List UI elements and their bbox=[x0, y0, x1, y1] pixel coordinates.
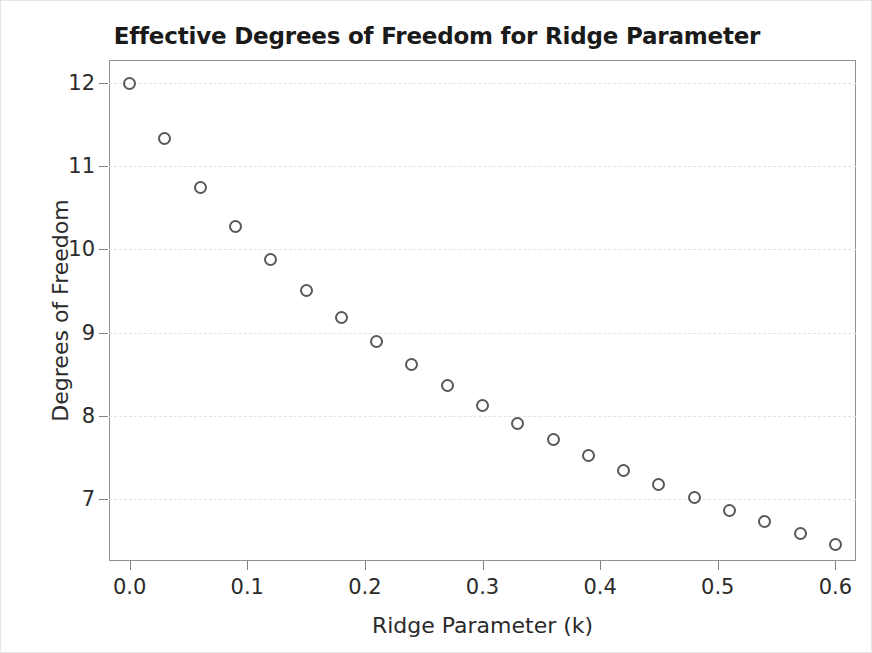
y-tick-mark bbox=[99, 416, 108, 417]
data-point bbox=[335, 311, 348, 324]
x-tick-label: 0.3 bbox=[466, 575, 499, 599]
x-tick-mark bbox=[365, 561, 366, 570]
chart-title: Effective Degrees of Freedom for Ridge P… bbox=[1, 23, 872, 49]
y-tick-label: 7 bbox=[82, 487, 95, 511]
y-tick-mark bbox=[99, 499, 108, 500]
x-tick-label: 0.4 bbox=[583, 575, 616, 599]
y-tick-mark bbox=[99, 249, 108, 250]
y-axis-label: Degrees of Freedom bbox=[41, 60, 81, 561]
gridline-y bbox=[109, 333, 856, 334]
x-tick-mark bbox=[718, 561, 719, 570]
x-tick-mark bbox=[130, 561, 131, 570]
data-point bbox=[441, 379, 454, 392]
chart-figure: Effective Degrees of Freedom for Ridge P… bbox=[0, 0, 872, 653]
plot-area: 789101112 0.00.10.20.30.40.50.6 bbox=[109, 60, 856, 561]
x-tick-mark bbox=[247, 561, 248, 570]
data-point bbox=[511, 417, 524, 430]
data-point bbox=[688, 491, 701, 504]
x-tick-mark bbox=[483, 561, 484, 570]
data-point bbox=[723, 504, 736, 517]
x-tick-label: 0.0 bbox=[113, 575, 146, 599]
y-tick-mark bbox=[99, 83, 108, 84]
y-tick-mark bbox=[99, 166, 108, 167]
gridline-y bbox=[109, 83, 856, 84]
x-tick-label: 0.2 bbox=[348, 575, 381, 599]
x-tick-mark bbox=[835, 561, 836, 570]
y-tick-mark bbox=[99, 333, 108, 334]
data-point bbox=[229, 220, 242, 233]
gridline-y bbox=[109, 499, 856, 500]
data-point bbox=[123, 77, 136, 90]
y-tick-label: 9 bbox=[82, 321, 95, 345]
y-tick-label: 8 bbox=[82, 404, 95, 428]
gridline-y bbox=[109, 249, 856, 250]
x-tick-mark bbox=[600, 561, 601, 570]
x-axis-label: Ridge Parameter (k) bbox=[109, 613, 856, 638]
x-tick-label: 0.6 bbox=[819, 575, 852, 599]
data-point bbox=[794, 527, 807, 540]
x-tick-label: 0.5 bbox=[701, 575, 734, 599]
gridline-y bbox=[109, 166, 856, 167]
data-point bbox=[829, 538, 842, 551]
data-point bbox=[194, 181, 207, 194]
plot-frame bbox=[109, 60, 856, 561]
gridline-y bbox=[109, 416, 856, 417]
data-point bbox=[547, 433, 560, 446]
data-point bbox=[300, 284, 313, 297]
x-tick-label: 0.1 bbox=[231, 575, 264, 599]
data-point bbox=[617, 464, 630, 477]
data-point bbox=[582, 449, 595, 462]
